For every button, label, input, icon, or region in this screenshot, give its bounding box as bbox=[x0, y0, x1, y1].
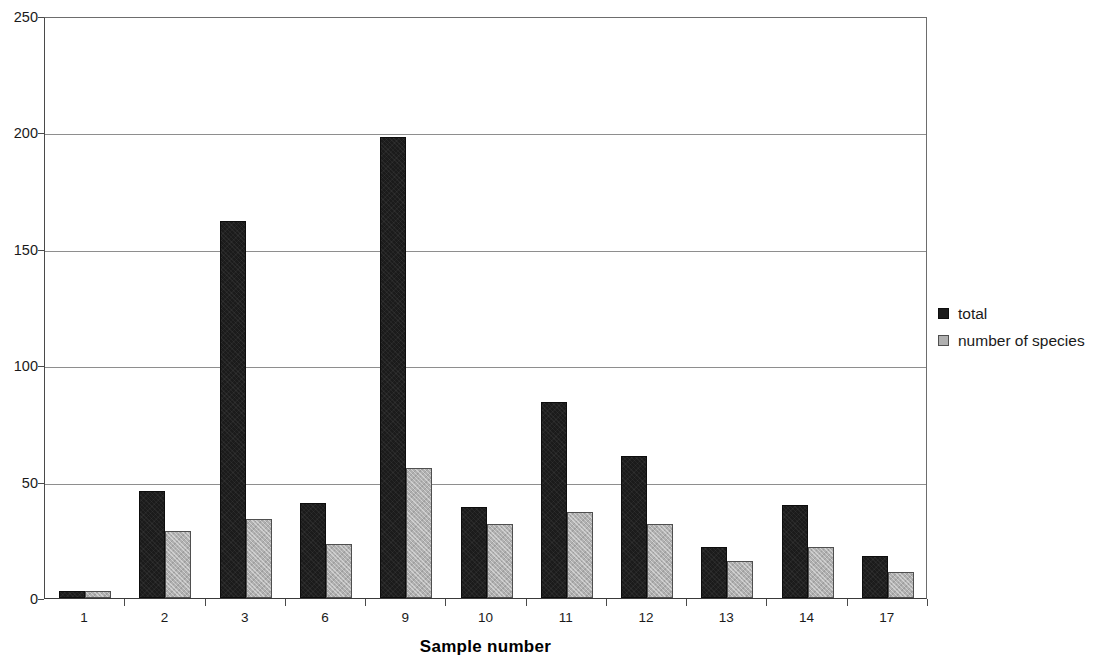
x-axis-tick-mark bbox=[927, 599, 928, 606]
x-axis-tick-label: 12 bbox=[616, 611, 676, 625]
plot-area bbox=[44, 17, 927, 599]
bar-number-of-species-14 bbox=[808, 547, 834, 598]
bar-total-10 bbox=[461, 507, 487, 598]
x-axis-tick-label: 1 bbox=[54, 611, 114, 625]
x-axis-tick-mark bbox=[606, 599, 607, 606]
bar-number-of-species-10 bbox=[487, 524, 513, 598]
gridline bbox=[45, 251, 926, 252]
x-axis-tick-label: 17 bbox=[857, 611, 917, 625]
legend-label-number-of-species: number of species bbox=[958, 333, 1085, 349]
bar-total-2 bbox=[139, 491, 165, 598]
bar-total-13 bbox=[701, 547, 727, 598]
bar-number-of-species-2 bbox=[165, 531, 191, 599]
gridline bbox=[45, 484, 926, 485]
x-axis-title: Sample number bbox=[44, 637, 927, 657]
x-axis-tick-label: 11 bbox=[536, 611, 596, 625]
x-axis-tick-mark bbox=[445, 599, 446, 606]
bar-total-17 bbox=[862, 556, 888, 598]
legend-item-number-of-species: number of species bbox=[938, 327, 1085, 354]
legend-swatch-total-icon bbox=[938, 308, 949, 319]
bar-number-of-species-12 bbox=[647, 524, 673, 598]
bar-chart: 050100150200250 12369101112131417 Sample… bbox=[0, 0, 1116, 663]
x-axis-tick-mark bbox=[766, 599, 767, 606]
bar-total-11 bbox=[541, 402, 567, 598]
x-axis-tick-mark bbox=[124, 599, 125, 606]
x-axis-tick-mark bbox=[686, 599, 687, 606]
x-axis-tick-mark bbox=[847, 599, 848, 606]
y-axis-tick-label: 100 bbox=[0, 359, 38, 374]
gridline bbox=[45, 367, 926, 368]
bar-total-9 bbox=[380, 137, 406, 598]
x-axis-tick-mark bbox=[526, 599, 527, 606]
legend-swatch-species-icon bbox=[938, 335, 949, 346]
bar-number-of-species-9 bbox=[406, 468, 432, 598]
x-axis-tick-label: 9 bbox=[375, 611, 435, 625]
bar-number-of-species-6 bbox=[326, 544, 352, 598]
bar-number-of-species-13 bbox=[727, 561, 753, 598]
chart-legend: total number of species bbox=[938, 300, 1085, 354]
legend-label-total: total bbox=[958, 306, 987, 322]
gridline bbox=[45, 134, 926, 135]
y-axis-tick-label: 150 bbox=[0, 243, 38, 258]
x-axis-tick-label: 3 bbox=[215, 611, 275, 625]
bar-total-14 bbox=[782, 505, 808, 598]
x-axis-tick-mark bbox=[205, 599, 206, 606]
x-axis-tick-label: 14 bbox=[777, 611, 837, 625]
x-axis-tick-label: 10 bbox=[456, 611, 516, 625]
x-axis-tick-label: 13 bbox=[696, 611, 756, 625]
y-axis-tick-label: 200 bbox=[0, 126, 38, 141]
bar-number-of-species-11 bbox=[567, 512, 593, 598]
y-axis-tick-label: 0 bbox=[0, 592, 38, 607]
bar-total-3 bbox=[220, 221, 246, 598]
y-axis-tick-label: 50 bbox=[0, 475, 38, 490]
bar-total-1 bbox=[59, 591, 85, 598]
x-axis-tick-label: 6 bbox=[295, 611, 355, 625]
bar-number-of-species-1 bbox=[85, 591, 111, 598]
bar-number-of-species-3 bbox=[246, 519, 272, 598]
bar-number-of-species-17 bbox=[888, 572, 914, 598]
bar-total-6 bbox=[300, 503, 326, 598]
x-axis-tick-label: 2 bbox=[134, 611, 194, 625]
bar-total-12 bbox=[621, 456, 647, 598]
x-axis-tick-mark bbox=[285, 599, 286, 606]
legend-item-total: total bbox=[938, 300, 1085, 327]
x-axis-tick-mark bbox=[365, 599, 366, 606]
y-axis-tick-label: 250 bbox=[0, 10, 38, 25]
y-axis-tick-mark bbox=[38, 599, 44, 600]
